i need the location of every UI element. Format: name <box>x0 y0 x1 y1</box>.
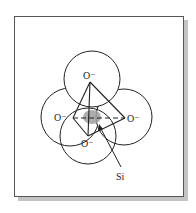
silicon-label: Si <box>116 171 125 182</box>
oxygen-label-right: O⁻ <box>127 113 140 124</box>
silicate-tetrahedron-figure: O⁻ O⁻ O⁻ O⁻ Si <box>0 0 196 213</box>
diagram-canvas: O⁻ O⁻ O⁻ O⁻ Si <box>0 0 196 213</box>
oxygen-label-bottom: O⁻ <box>81 138 94 149</box>
silicon-atom <box>83 110 101 124</box>
oxygen-label-top: O⁻ <box>83 70 96 81</box>
oxygen-label-left: O⁻ <box>54 112 67 123</box>
